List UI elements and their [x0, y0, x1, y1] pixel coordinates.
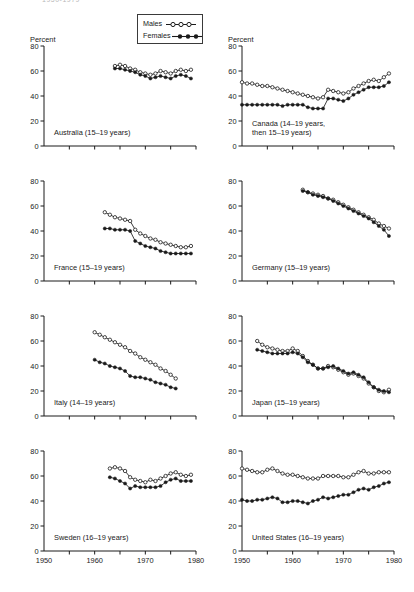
data-point-males: [347, 476, 350, 479]
data-point-males: [291, 473, 294, 476]
y-axis-tick-label: 40: [228, 92, 236, 101]
data-point-females: [357, 212, 360, 215]
data-point-females: [134, 376, 137, 379]
data-point-females: [144, 244, 147, 247]
x-axis-tick-label: 1980: [188, 556, 204, 565]
data-point-males: [164, 369, 167, 372]
data-point-females: [286, 501, 289, 504]
panel-caption-italy: Italy (14–19 years): [54, 398, 115, 407]
data-point-females: [245, 499, 248, 502]
series-line-females: [105, 229, 191, 254]
data-point-males: [108, 338, 111, 341]
plot-area-canada: Percent020406080Canada (14–19 years,then…: [222, 34, 402, 162]
data-point-females: [327, 97, 330, 100]
data-point-females: [327, 197, 330, 200]
data-point-females: [256, 348, 259, 351]
data-point-females: [139, 242, 142, 245]
data-point-females: [139, 486, 142, 489]
data-point-males: [149, 237, 152, 240]
data-point-females: [367, 86, 370, 89]
panel-france: 020406080France (15–19 years): [24, 169, 204, 297]
plot-area-italy: 020406080Italy (14–19 years): [24, 304, 204, 432]
y-axis-tick-label: 80: [30, 177, 38, 186]
data-point-males: [362, 469, 365, 472]
panel-australia: Percent020406080Australia (15–19 years): [24, 34, 204, 162]
data-point-females: [311, 107, 314, 110]
data-point-males: [123, 218, 126, 221]
data-point-females: [281, 352, 284, 355]
y-axis-tick-label: 20: [228, 522, 236, 531]
data-point-males: [382, 471, 385, 474]
data-point-males: [149, 361, 152, 364]
y-axis-tick-label: 60: [228, 472, 236, 481]
data-point-males: [154, 479, 157, 482]
data-point-females: [118, 228, 121, 231]
y-axis-tick-label: 20: [30, 117, 38, 126]
data-point-males: [387, 471, 390, 474]
data-point-females: [281, 104, 284, 107]
data-point-females: [342, 369, 345, 372]
data-point-females: [139, 73, 142, 76]
data-point-males: [179, 68, 182, 71]
data-point-females: [291, 499, 294, 502]
y-axis-tick-label: 80: [30, 312, 38, 321]
data-point-males: [306, 94, 309, 97]
data-point-females: [372, 221, 375, 224]
y-axis-tick-label: 20: [30, 522, 38, 531]
data-point-females: [108, 364, 111, 367]
data-point-males: [240, 467, 243, 470]
data-point-females: [362, 214, 365, 217]
data-point-males: [139, 356, 142, 359]
data-point-females: [240, 498, 243, 501]
data-point-males: [367, 79, 370, 82]
data-point-females: [266, 497, 269, 500]
data-point-females: [118, 367, 121, 370]
y-axis-tick-label: 80: [228, 312, 236, 321]
data-point-females: [179, 73, 182, 76]
data-point-females: [321, 196, 324, 199]
data-point-males: [352, 473, 355, 476]
data-point-females: [154, 381, 157, 384]
data-point-females: [251, 103, 254, 106]
data-point-females: [174, 252, 177, 255]
data-point-females: [159, 74, 162, 77]
data-point-males: [169, 243, 172, 246]
data-point-females: [281, 501, 284, 504]
data-point-females: [189, 252, 192, 255]
data-point-males: [139, 232, 142, 235]
data-point-males: [256, 471, 259, 474]
data-point-males: [144, 234, 147, 237]
data-point-males: [98, 333, 101, 336]
data-point-females: [93, 358, 96, 361]
data-point-males: [256, 339, 259, 342]
data-point-females: [332, 199, 335, 202]
data-point-females: [139, 376, 142, 379]
data-point-females: [134, 71, 137, 74]
y-axis-tick-label: 0: [34, 142, 38, 151]
y-axis-tick-label: 60: [30, 202, 38, 211]
data-point-males: [311, 96, 314, 99]
data-point-females: [271, 103, 274, 106]
data-point-females: [154, 247, 157, 250]
data-point-males: [286, 89, 289, 92]
figure-root: 1950-1979 Males Females: [0, 0, 414, 592]
data-point-females: [261, 498, 264, 501]
data-point-females: [144, 377, 147, 380]
legend-item-males: Males: [143, 18, 198, 30]
data-point-males: [169, 72, 172, 75]
y-axis-tick-label: 40: [30, 92, 38, 101]
data-point-males: [337, 474, 340, 477]
data-point-females: [382, 482, 385, 485]
data-point-females: [189, 479, 192, 482]
data-point-females: [149, 246, 152, 249]
data-point-males: [174, 377, 177, 380]
data-point-females: [103, 362, 106, 365]
plot-area-france: 020406080France (15–19 years): [24, 169, 204, 297]
data-point-males: [271, 86, 274, 89]
data-point-males: [118, 63, 121, 66]
data-point-males: [261, 343, 264, 346]
data-point-females: [159, 484, 162, 487]
series-line-females: [257, 350, 389, 393]
panel-caption-france: France (15–19 years): [54, 263, 125, 272]
data-point-males: [118, 343, 121, 346]
